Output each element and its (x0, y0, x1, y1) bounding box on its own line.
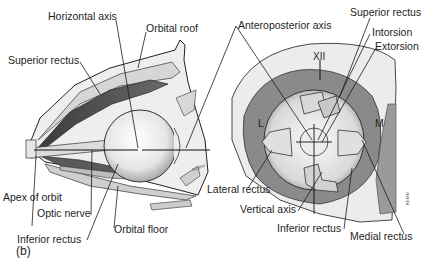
label-apex-of-orbit: Apex of orbit (3, 191, 62, 203)
label-medial-side: M (375, 117, 384, 129)
label-horizontal-axis: Horizontal axis (48, 10, 117, 22)
label-lateral-side: L (258, 117, 264, 129)
panel-label: (b) (16, 244, 31, 258)
label-inferior-rectus-right: Inferior rectus (277, 222, 341, 234)
label-superior-rectus-right: Superior rectus (350, 6, 421, 18)
label-orbital-floor: Orbital floor (114, 223, 168, 235)
label-lateral-rectus: Lateral rectus (207, 183, 271, 195)
label-orbital-roof: Orbital roof (146, 22, 198, 34)
label-vertical-axis: Vertical axis (240, 203, 296, 215)
label-optic-nerve: Optic nerve (37, 207, 91, 219)
label-anteroposterior-axis: Anteroposterior axis (238, 19, 331, 31)
label-medial-rectus: Medial rectus (350, 230, 412, 242)
label-intorsion: Intorsion (372, 26, 412, 38)
label-xii: XII (313, 51, 325, 63)
label-superior-rectus-left: Superior rectus (8, 54, 79, 66)
eye-frontal-view (232, 43, 396, 222)
artist-signature-right: REMM (405, 192, 410, 205)
label-extorsion: Extorsion (375, 40, 419, 52)
